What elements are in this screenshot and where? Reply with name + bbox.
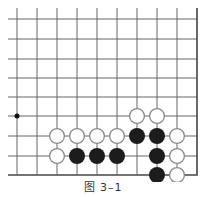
white-stone xyxy=(70,129,85,144)
grid-lines xyxy=(8,8,198,175)
black-stone xyxy=(129,128,145,144)
go-board-grid xyxy=(0,0,206,182)
black-stone xyxy=(89,148,105,164)
black-stone xyxy=(149,148,165,164)
black-stone xyxy=(149,167,165,182)
white-stone xyxy=(170,168,185,182)
black-stone xyxy=(69,148,85,164)
black-stone xyxy=(149,128,165,144)
white-stone xyxy=(50,129,65,144)
star-point xyxy=(15,114,20,119)
white-stone xyxy=(50,149,65,164)
go-board xyxy=(0,0,206,182)
black-stone xyxy=(109,148,125,164)
white-stone xyxy=(170,129,185,144)
white-stone xyxy=(130,109,145,124)
star-points xyxy=(15,114,20,119)
figure-caption: 图 3–1 xyxy=(0,181,206,195)
white-stone xyxy=(150,109,165,124)
white-stone xyxy=(90,129,105,144)
white-stone xyxy=(170,149,185,164)
white-stone xyxy=(110,129,125,144)
